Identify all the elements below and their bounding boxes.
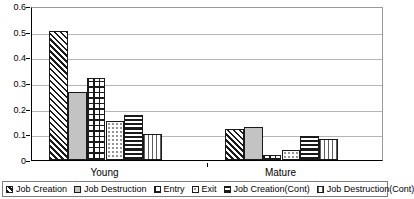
y-tick-label: 0.3 [13, 80, 26, 89]
legend-swatch-icon [317, 186, 324, 193]
legend-item[interactable]: Job Destruction [74, 184, 147, 194]
y-tick-label: 0.6 [13, 3, 26, 12]
legend-label: Job Destruction(Cont) [327, 184, 414, 194]
bar [143, 134, 162, 160]
bar [49, 31, 68, 160]
legend-label: Job Destruction [84, 184, 147, 194]
legend-swatch-icon [224, 186, 231, 193]
legend-label: Entry [164, 184, 185, 194]
y-tick-mark [26, 161, 30, 162]
legend-swatch-icon [74, 186, 81, 193]
bar [263, 155, 282, 160]
y-tick-label: 0.4 [13, 54, 26, 63]
y-tick-mark [26, 7, 30, 8]
bar [87, 78, 106, 160]
y-tick-mark [26, 33, 30, 34]
legend-swatch-icon [154, 186, 161, 193]
y-tick-mark [26, 110, 30, 111]
legend-item[interactable]: Entry [154, 184, 185, 194]
bar [68, 92, 87, 160]
plot-wrapper: 0.60.50.40.30.20.10 YoungMature [0, 0, 390, 176]
legend-label: Exit [202, 184, 217, 194]
bar [300, 136, 319, 160]
chart-legend: Job CreationJob DestructionEntryExitJob … [2, 181, 388, 197]
bar [244, 127, 263, 160]
bar [282, 150, 301, 160]
y-tick-label: 0.2 [13, 105, 26, 114]
legend-label: Job Creation(Cont) [234, 184, 310, 194]
y-tick-label: 0.5 [13, 28, 26, 37]
legend-swatch-icon [6, 186, 13, 193]
legend-swatch-icon [192, 186, 199, 193]
x-tick-label: Mature [265, 167, 296, 178]
y-tick-mark [26, 135, 30, 136]
legend-item[interactable]: Exit [192, 184, 217, 194]
bars-layer [32, 8, 382, 160]
plot-area [31, 7, 383, 161]
legend-label: Job Creation [16, 184, 67, 194]
x-tick-label: Young [91, 167, 119, 178]
bar [106, 121, 125, 160]
legend-item[interactable]: Job Creation [6, 184, 67, 194]
y-tick-mark [26, 84, 30, 85]
bar [319, 139, 338, 160]
bar [225, 129, 244, 160]
x-axis-category-labels: YoungMature [31, 163, 383, 179]
y-axis: 0.60.50.40.30.20.10 [0, 0, 30, 176]
legend-item[interactable]: Job Creation(Cont) [224, 184, 310, 194]
y-tick-label: 0.1 [13, 131, 26, 140]
y-tick-mark [26, 58, 30, 59]
legend-item[interactable]: Job Destruction(Cont) [317, 184, 414, 194]
bar [124, 115, 143, 160]
x-tick-mark [207, 163, 208, 167]
